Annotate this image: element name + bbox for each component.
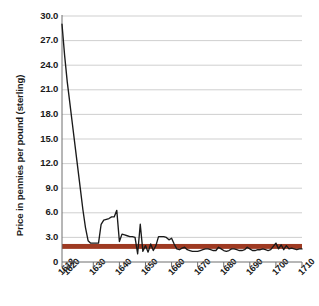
plot-canvas [0, 0, 319, 306]
axis-ticks [62, 262, 302, 267]
price-line-chart: Price in pennies per pound (sterling) 03… [0, 0, 319, 306]
gridlines [62, 16, 302, 237]
axis-lines [62, 15, 302, 262]
